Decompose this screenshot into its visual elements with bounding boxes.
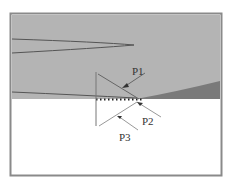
label-p1: P1 xyxy=(132,65,144,77)
label-p2: P2 xyxy=(142,115,154,127)
diagram-canvas: P1 P2 P3 xyxy=(0,0,229,182)
label-p3: P3 xyxy=(119,131,131,143)
upper-region xyxy=(12,15,220,99)
